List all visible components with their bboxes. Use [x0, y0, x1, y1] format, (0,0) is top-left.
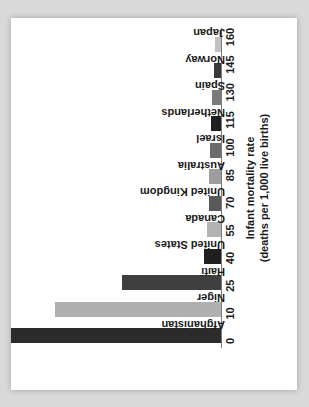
category-label: Japan — [193, 27, 225, 39]
axis-tick-label: 160 — [224, 20, 236, 54]
bar-chart: 0102540557085100115130145160 Afghanistan… — [11, 18, 297, 390]
category-label: Netherlands — [161, 107, 225, 119]
axis-title-line2: (deaths per 1,000 live births) — [257, 28, 271, 348]
axis-title: Infant mortality rate (deaths per 1,000 … — [243, 28, 271, 348]
axis-title-line1: Infant mortality rate — [243, 28, 257, 348]
screenshot-background: 0102540557085100115130145160 Afghanistan… — [0, 0, 309, 407]
bar — [55, 302, 221, 317]
category-label: United Kingdom — [140, 186, 225, 198]
bar — [215, 37, 221, 52]
category-label: Niger — [197, 292, 225, 304]
category-label: Haiti — [201, 266, 225, 278]
bar — [204, 249, 221, 264]
category-label: Australia — [178, 160, 225, 172]
rotated-chart-wrapper: 0102540557085100115130145160 Afghanistan… — [11, 18, 297, 390]
category-label: Israel — [196, 133, 225, 145]
category-label: Afghanistan — [161, 319, 225, 331]
bar — [212, 90, 221, 105]
category-label: Spain — [195, 80, 225, 92]
category-label: Norway — [185, 54, 225, 66]
bar — [210, 143, 221, 158]
bar — [209, 196, 221, 211]
category-label: Canada — [185, 213, 225, 225]
category-label: United States — [155, 239, 225, 251]
